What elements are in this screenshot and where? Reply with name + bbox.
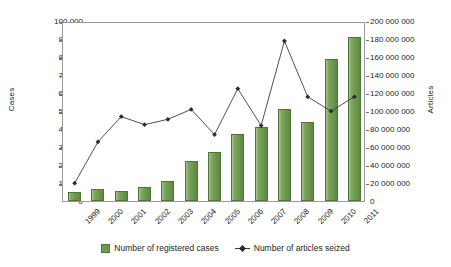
legend-swatch-icon	[101, 244, 110, 253]
y-tick-label-right: 100 000 000	[370, 108, 415, 116]
line-markers	[72, 39, 356, 186]
line-series	[63, 23, 366, 203]
axis-tick-mark	[366, 58, 369, 59]
line-marker-2006	[235, 86, 240, 91]
y-tick-label-right: 40 000 000	[370, 162, 410, 170]
legend-line-marker-icon	[235, 245, 250, 252]
axis-tick-mark	[366, 130, 369, 131]
line-marker-1999	[72, 181, 77, 186]
line-marker-2008	[282, 39, 287, 44]
legend-item-bars: Number of registered cases	[101, 243, 218, 253]
line-marker-2010	[329, 109, 334, 114]
y-axis-left-title: Cases	[7, 70, 16, 130]
chart-container: Cases Articles 010 00020 00030 00040 000…	[0, 0, 451, 267]
x-tick-label-2001: 2001	[129, 207, 148, 226]
x-tick-label-2002: 2002	[153, 207, 172, 226]
line-path	[75, 41, 355, 183]
x-tick-label-2006: 2006	[246, 207, 265, 226]
axis-tick-mark	[366, 40, 369, 41]
y-tick-label-right: 140 000 000	[370, 72, 415, 80]
chart-legend: Number of registered cases Number of art…	[0, 243, 451, 253]
x-tick-label-2009: 2009	[316, 207, 335, 226]
line-marker-2011	[352, 94, 357, 99]
legend-label-bars: Number of registered cases	[114, 243, 218, 253]
axis-tick-mark	[366, 94, 369, 95]
axis-tick-mark	[366, 148, 369, 149]
x-tick-label-2003: 2003	[176, 207, 195, 226]
y-tick-label-right: 80 000 000	[370, 126, 410, 134]
x-tick-label-2005: 2005	[223, 207, 242, 226]
axis-tick-mark	[366, 112, 369, 113]
axis-tick-mark	[366, 184, 369, 185]
line-marker-2003	[165, 117, 170, 122]
y-tick-label-right: 20 000 000	[370, 180, 410, 188]
x-tick-label-2010: 2010	[339, 207, 358, 226]
y-tick-label-right: 200 000 000	[370, 18, 415, 26]
y-tick-label-right: 180 000 000	[370, 36, 415, 44]
y-axis-right-title: Articles	[426, 70, 435, 130]
x-tick-label-2008: 2008	[293, 207, 312, 226]
x-tick-label-2007: 2007	[269, 207, 288, 226]
legend-label-line: Number of articles seized	[254, 243, 350, 253]
y-tick-label-right: 160 000 000	[370, 54, 415, 62]
legend-item-line: Number of articles seized	[235, 243, 350, 253]
x-tick-label-2004: 2004	[199, 207, 218, 226]
line-marker-2002	[142, 122, 147, 127]
line-marker-2007	[259, 123, 264, 128]
axis-tick-mark	[366, 166, 369, 167]
plot-area	[62, 22, 365, 202]
x-tick-label-1999: 1999	[83, 207, 102, 226]
line-marker-2009	[305, 94, 310, 99]
y-tick-label-right: 60 000 000	[370, 144, 410, 152]
axis-tick-mark	[366, 22, 369, 23]
axis-tick-mark	[366, 76, 369, 77]
x-tick-label-2000: 2000	[106, 207, 125, 226]
y-tick-label-right: 120 000 000	[370, 90, 415, 98]
x-tick-label-2011: 2011	[362, 207, 381, 226]
y-tick-label-right: 0	[370, 198, 374, 206]
